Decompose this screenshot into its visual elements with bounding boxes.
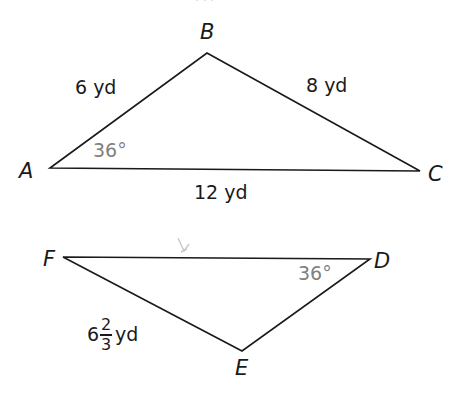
angle-label-d: 36° — [298, 264, 332, 283]
fraction-denominator: 3 — [101, 337, 111, 353]
side-label-ac: 12 yd — [194, 183, 248, 202]
angle-label-a: 36° — [93, 141, 127, 160]
side-fe-fraction: 2 3 — [100, 317, 112, 353]
fraction-numerator: 2 — [101, 317, 111, 333]
side-label-ab: 6 yd — [75, 78, 116, 97]
side-label-bc: 8 yd — [306, 76, 347, 95]
vertex-label-e: E — [235, 358, 248, 379]
vertex-label-c: C — [428, 164, 443, 185]
cursor-mark-icon — [178, 238, 189, 252]
side-fe-whole: 6 — [87, 323, 99, 345]
vertex-label-b: B — [200, 22, 214, 43]
vertex-label-d: D — [374, 251, 390, 272]
vertex-label-a: A — [19, 161, 33, 182]
side-label-fe: 6 2 3 yd — [87, 317, 138, 353]
vertex-label-f: F — [43, 249, 55, 270]
side-fe-unit: yd — [115, 323, 138, 345]
